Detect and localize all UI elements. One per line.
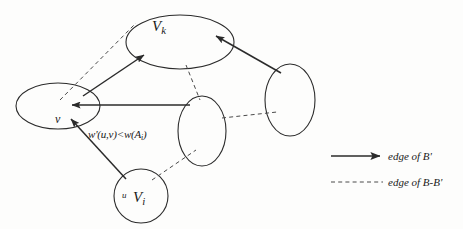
solid-edge-right-to-vk xyxy=(216,36,281,73)
node-shapes xyxy=(16,15,315,223)
legend-label-dashed: edge of B-B' xyxy=(388,176,442,188)
legend-swatch-solid-arrow xyxy=(330,148,384,164)
legend-label-solid: edge of B' xyxy=(388,150,432,162)
dashed-edge-middle-to-right xyxy=(222,112,277,118)
dashed-edges-group xyxy=(60,23,277,180)
figure-canvas: Vk v u Vi w'(u,v)<w(Ai) edge of B' edge … xyxy=(0,0,463,229)
solid-edge-v-to-vk xyxy=(83,55,144,96)
node-ellipse-vk xyxy=(126,15,234,69)
node-label-vk: Vk xyxy=(152,18,166,36)
legend-item-solid: edge of B' xyxy=(330,148,460,174)
legend-item-dashed: edge of B-B' xyxy=(330,174,460,200)
node-label-vi-main: V xyxy=(133,189,142,205)
dashed-edge-vi-to-middle xyxy=(152,150,196,180)
dashed-edge-vk-to-middle xyxy=(186,65,200,100)
node-label-vi: Vi xyxy=(133,189,145,207)
weight-annotation-body: w'(u,v)<w(A xyxy=(88,128,141,140)
weight-annotation: w'(u,v)<w(Ai) xyxy=(88,128,147,142)
node-label-vk-main: V xyxy=(152,18,161,34)
node-label-vi-subscript: i xyxy=(142,195,145,207)
legend-swatch-dashed-line xyxy=(330,174,384,190)
legend: edge of B' edge of B-B' xyxy=(330,148,460,200)
dashed-edge-v-to-vk xyxy=(60,23,136,100)
weight-annotation-tail: ) xyxy=(143,128,146,140)
node-label-vk-subscript: k xyxy=(161,24,166,36)
node-ellipse-right xyxy=(265,64,315,136)
node-label-v: v xyxy=(55,112,60,127)
node-ellipse-middle xyxy=(178,96,226,166)
node-label-u: u xyxy=(122,190,127,200)
